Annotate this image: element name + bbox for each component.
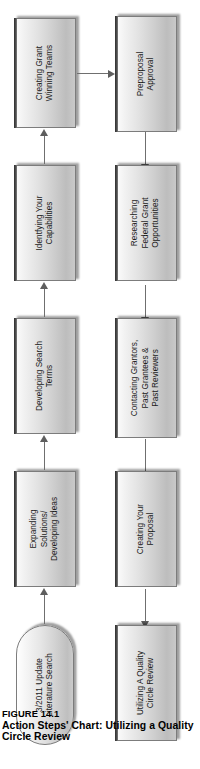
node-contacting-grantors-label: Contacting Grantors, Past Grantees & Pas…: [130, 340, 162, 417]
node-creating-proposal-label: Creating Your Proposal: [136, 504, 157, 554]
node-grant-winning-teams[interactable]: Creating Grant Winning Teams: [14, 18, 76, 128]
node-preproposal-approval[interactable]: Preproposal Approval: [115, 16, 177, 132]
connector-expanding-to-search-terms: [44, 439, 45, 470]
node-contacting-grantors[interactable]: Contacting Grantors, Past Grantees & Pas…: [115, 318, 177, 438]
connector-researching-to-contacting: [145, 285, 146, 317]
connector-teams-to-preproposal: [77, 73, 111, 74]
connector-preproposal-to-researching: [145, 132, 146, 164]
connector-contacting-to-creating: [145, 439, 146, 471]
node-preproposal-approval-label: Preproposal Approval: [136, 52, 157, 97]
node-identifying-capabilities-label: Identfying Your Capabilities: [35, 196, 56, 251]
connector-literature-to-expanding: [44, 592, 45, 624]
figure-container: 3/2011 Update Literature Search Expandin…: [0, 0, 200, 769]
node-developing-search-terms[interactable]: Developing Search Terms: [14, 318, 76, 434]
node-researching-federal-grants[interactable]: Researching Federal Grant Opportunities: [115, 165, 177, 281]
figure-caption: FIGURE 14.1 Action Steps' Chart: Utilizi…: [2, 708, 198, 742]
flowchart-stage: 3/2011 Update Literature Search Expandin…: [0, 0, 200, 769]
connector-expanding-to-search-terms-arrowhead: [40, 435, 48, 442]
node-developing-search-terms-label: Developing Search Terms: [35, 341, 56, 411]
node-grant-winning-teams-label: Creating Grant Winning Teams: [35, 45, 56, 101]
figure-number: FIGURE 14.1: [2, 708, 198, 719]
node-researching-federal-grants-label: Researching Federal Grant Opportunities: [130, 197, 162, 248]
connector-capabilities-to-teams-arrowhead: [40, 129, 48, 136]
connector-search-terms-to-capabilities: [44, 286, 45, 317]
node-identifying-capabilities[interactable]: Identfying Your Capabilities: [14, 165, 76, 281]
figure-title: Action Steps' Chart: Utilizing a Quality…: [2, 720, 198, 742]
connector-capabilities-to-teams: [44, 133, 45, 164]
node-quality-circle-review-label: Utilizing A Quality Circle Review: [136, 651, 157, 715]
connector-literature-to-expanding-arrowhead: [40, 588, 48, 595]
connector-teams-to-preproposal-arrowhead: [108, 70, 115, 78]
node-expanding-solutions-label: Expanding Solutions/ Developing Ideas: [29, 497, 61, 561]
connector-creating-to-quality-circle: [145, 589, 146, 621]
node-creating-proposal[interactable]: Creating Your Proposal: [115, 471, 177, 587]
node-expanding-solutions[interactable]: Expanding Solutions/ Developing Ideas: [14, 471, 76, 587]
connector-search-terms-to-capabilities-arrowhead: [40, 282, 48, 289]
